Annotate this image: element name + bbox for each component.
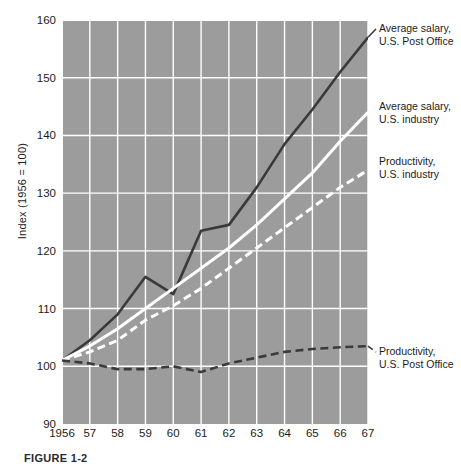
x-tick-1956: 1956 bbox=[49, 427, 75, 439]
x-tick-61: 61 bbox=[195, 427, 208, 439]
x-tick-66: 66 bbox=[334, 427, 347, 439]
y-tick-150: 150 bbox=[10, 72, 56, 84]
y-tick-110: 110 bbox=[10, 303, 56, 315]
series-line-2 bbox=[62, 170, 368, 360]
leader-line-0 bbox=[368, 29, 376, 37]
chart-svg bbox=[62, 20, 368, 424]
figure-container: 90100110120130140150160 Index (1956 = 10… bbox=[0, 0, 461, 467]
x-tick-64: 64 bbox=[278, 427, 291, 439]
annotation-average-salary-industry: Average salary, U.S. industry bbox=[379, 100, 451, 125]
y-axis-ticks: 90100110120130140150160 bbox=[0, 0, 56, 467]
x-tick-60: 60 bbox=[167, 427, 180, 439]
leader-line-1 bbox=[368, 107, 376, 112]
x-tick-65: 65 bbox=[306, 427, 319, 439]
x-tick-57: 57 bbox=[83, 427, 96, 439]
gridlines bbox=[62, 20, 368, 424]
x-tick-63: 63 bbox=[250, 427, 263, 439]
y-tick-160: 160 bbox=[10, 14, 56, 26]
data-series-group bbox=[62, 37, 368, 372]
plot-area bbox=[62, 20, 368, 424]
annotation-productivity-post-office: Productivity, U.S. Post Office bbox=[379, 345, 454, 370]
annotation-average-salary-post-office: Average salary, U.S. Post Office bbox=[379, 22, 454, 47]
annotation-productivity-industry: Productivity, U.S. industry bbox=[379, 155, 439, 180]
leader-line-3 bbox=[368, 346, 376, 352]
x-tick-67: 67 bbox=[362, 427, 375, 439]
series-line-0 bbox=[62, 37, 368, 360]
x-tick-62: 62 bbox=[223, 427, 236, 439]
x-tick-59: 59 bbox=[139, 427, 152, 439]
figure-caption: FIGURE 1-2 bbox=[24, 452, 88, 464]
series-line-3 bbox=[62, 346, 368, 372]
y-tick-100: 100 bbox=[10, 360, 56, 372]
y-axis-label: Index (1956 = 100) bbox=[16, 111, 28, 271]
x-tick-58: 58 bbox=[111, 427, 124, 439]
leader-line-2 bbox=[368, 162, 376, 170]
